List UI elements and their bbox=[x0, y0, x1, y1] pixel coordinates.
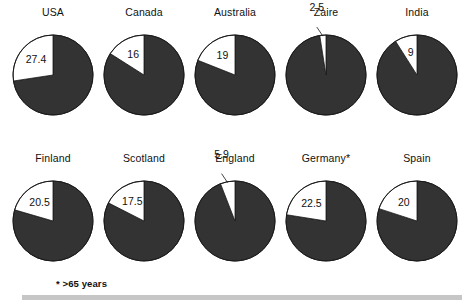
pie-title-india: India bbox=[370, 6, 464, 18]
pie-cell-canada: Canada16 bbox=[97, 6, 191, 147]
pie-value-label-australia: 19 bbox=[200, 49, 244, 61]
pie-value-label-spain: 20 bbox=[382, 196, 426, 208]
pie-value-label-usa: 27.4 bbox=[14, 53, 58, 65]
pie-title-canada: Canada bbox=[97, 6, 191, 18]
pie-graphic-usa bbox=[6, 28, 100, 138]
pie-cell-germany: Germany*22.5 bbox=[279, 152, 373, 293]
pie-title-australia: Australia bbox=[188, 6, 282, 18]
bottom-divider-bar bbox=[22, 295, 462, 300]
pie-cell-usa: USA27.4 bbox=[6, 6, 100, 147]
pie-title-finland: Finland bbox=[6, 152, 100, 164]
pie-value-label-scotland: 17.5 bbox=[110, 195, 154, 207]
pie-value-label-england: 5.9 bbox=[200, 148, 244, 160]
pie-leader-line-england bbox=[188, 174, 282, 284]
pie-title-scotland: Scotland bbox=[97, 152, 191, 164]
pie-title-usa: USA bbox=[6, 6, 100, 18]
footnote-text: * >65 years bbox=[56, 278, 107, 289]
pie-leader-line-zaire bbox=[279, 28, 373, 138]
pie-cell-australia: Australia19 bbox=[188, 6, 282, 147]
pie-cell-scotland: Scotland17.5 bbox=[97, 152, 191, 293]
pie-graphic-australia bbox=[188, 28, 282, 138]
pie-graphic-germany bbox=[279, 174, 373, 284]
pie-cell-england: England5.9 bbox=[188, 152, 282, 293]
pie-title-germany: Germany* bbox=[279, 152, 373, 164]
pie-graphic-canada bbox=[97, 28, 191, 138]
pie-cell-zaire: Zaire2.5 bbox=[279, 6, 373, 147]
pie-value-label-finland: 20.5 bbox=[18, 196, 62, 208]
pie-cell-finland: Finland20.5 bbox=[6, 152, 100, 293]
pie-graphic-finland bbox=[6, 174, 100, 284]
pie-cell-spain: Spain20 bbox=[370, 152, 464, 293]
pie-title-spain: Spain bbox=[370, 152, 464, 164]
pie-value-label-india: 9 bbox=[389, 46, 433, 58]
pie-value-label-canada: 16 bbox=[111, 48, 155, 60]
pie-cell-india: India9 bbox=[370, 6, 464, 147]
pie-value-label-zaire: 2.5 bbox=[295, 1, 339, 13]
pie-graphic-india bbox=[370, 28, 464, 138]
pie-graphic-spain bbox=[370, 174, 464, 284]
pie-graphic-scotland bbox=[97, 174, 191, 284]
pie-value-label-germany: 22.5 bbox=[289, 197, 333, 209]
pie-chart-figure: USA27.4 Canada16 Australia19 Zaire2.5 In… bbox=[0, 0, 468, 302]
